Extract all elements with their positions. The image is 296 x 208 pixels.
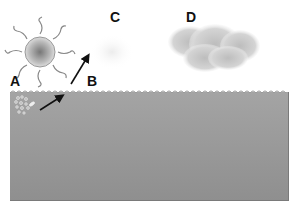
label-a: A bbox=[10, 74, 20, 88]
cloud-icon bbox=[168, 24, 260, 72]
diagram-canvas bbox=[0, 0, 296, 208]
label-b: B bbox=[87, 74, 97, 88]
arrow-underwater bbox=[40, 96, 62, 110]
label-d: D bbox=[186, 10, 196, 24]
faint-cloud-icon bbox=[90, 34, 134, 70]
label-c: C bbox=[110, 10, 120, 24]
water-surface bbox=[10, 91, 286, 93]
arrow-air bbox=[71, 56, 88, 84]
particle-cluster-icon bbox=[15, 96, 36, 115]
